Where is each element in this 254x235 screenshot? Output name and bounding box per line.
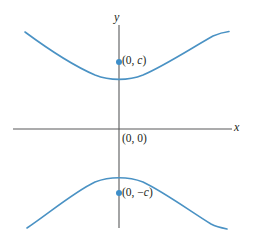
y-axis-label: y — [114, 11, 119, 23]
focus-lower-label-prefix: (0, − — [122, 186, 144, 198]
focus-upper-label: (0, c) — [122, 55, 146, 67]
focus-lower-label: (0, −c) — [122, 187, 153, 199]
focus-upper-label-prefix: (0, — [122, 54, 137, 66]
hyperbola-figure: y x (0, c) (0, 0) (0, −c) — [0, 0, 254, 235]
focus-upper-label-suffix: ) — [142, 54, 146, 66]
hyperbola-plot — [0, 0, 254, 235]
focus-lower-label-suffix: ) — [149, 186, 153, 198]
x-axis-label: x — [234, 121, 239, 133]
origin-label: (0, 0) — [122, 133, 147, 145]
